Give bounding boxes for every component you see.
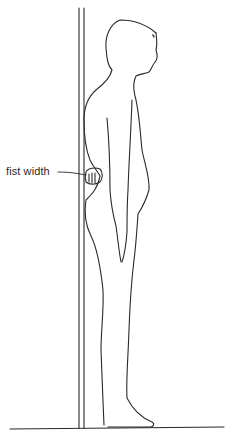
annotation-leader-line [58,172,86,175]
figure-arm-front [122,100,132,262]
figure-ear-mark [153,35,154,37]
illustration [0,0,235,438]
posture-diagram: fist width [0,0,235,438]
figure-back-outline [84,20,156,425]
figure-arm-back [107,118,121,262]
figure-front-outline [108,33,157,427]
fist-width-label: fist width [6,165,50,177]
wall-pole [79,8,84,428]
